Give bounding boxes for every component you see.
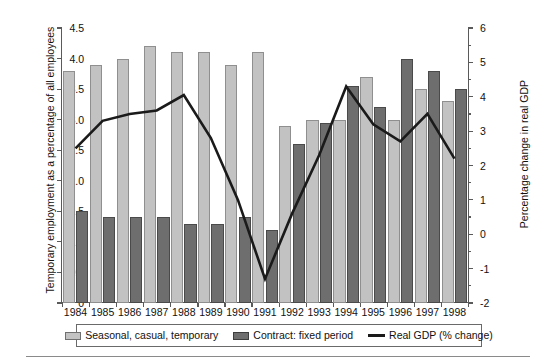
right-tick-label: -1 (480, 264, 489, 275)
right-minor-tick (468, 251, 471, 252)
legend-label-gdp: Real GDP (% change) (389, 330, 493, 341)
legend-item-gdp: Real GDP (% change) (368, 330, 493, 341)
right-minor-tick (468, 285, 471, 286)
legend-item-contract: Contract: fixed period (233, 330, 353, 341)
right-axis-tick-labels: -2-10123456 (480, 28, 510, 303)
right-tick-label: 5 (480, 57, 486, 68)
right-tick-label: 1 (480, 195, 486, 206)
right-minor-tick (468, 182, 471, 183)
right-tick-label: 4 (480, 92, 486, 103)
right-tick (468, 96, 473, 97)
right-tick (468, 27, 473, 28)
x-tick-label-1993: 1993 (306, 306, 333, 318)
x-tick-label-1988: 1988 (170, 306, 197, 318)
right-tick (468, 131, 473, 132)
x-tick-label-1997: 1997 (414, 306, 441, 318)
right-tick (468, 165, 473, 166)
light-bar-swatch-icon (65, 332, 81, 340)
right-tick-label: 3 (480, 126, 486, 137)
x-tick-label-1996: 1996 (387, 306, 414, 318)
x-axis-tick-labels: 1984198519861987198819891990199119921993… (62, 306, 468, 322)
plot-area: 00.51.01.52.02.53.03.54.04.5 -2-10123456… (62, 28, 468, 303)
right-tick-label: -2 (480, 298, 489, 309)
footer-divider (26, 356, 530, 357)
right-minor-tick (468, 148, 471, 149)
right-tick-label: 0 (480, 229, 486, 240)
x-tick (468, 302, 469, 307)
x-tick-label-1984: 1984 (62, 306, 89, 318)
legend-label-contract: Contract: fixed period (253, 330, 353, 341)
right-tick (468, 199, 473, 200)
right-minor-tick (468, 79, 471, 80)
chart-figure: 00.51.01.52.02.53.03.54.04.5 -2-10123456… (0, 0, 554, 364)
x-tick-label-1992: 1992 (279, 306, 306, 318)
right-tick-label: 6 (480, 23, 486, 34)
x-tick-label-1995: 1995 (360, 306, 387, 318)
x-tick-label-1990: 1990 (224, 306, 251, 318)
chart-legend: Seasonal, casual, temporary Contract: fi… (76, 324, 482, 347)
line-swatch-icon (368, 334, 385, 337)
right-minor-tick (468, 216, 471, 217)
x-tick-label-1985: 1985 (89, 306, 116, 318)
gdp-line-path (76, 86, 455, 279)
right-minor-tick (468, 45, 471, 46)
legend-label-seasonal: Seasonal, casual, temporary (85, 330, 218, 341)
x-tick-label-1989: 1989 (197, 306, 224, 318)
x-tick-label-1987: 1987 (143, 306, 170, 318)
x-tick-label-1998: 1998 (441, 306, 468, 318)
gdp-line-series (62, 28, 468, 303)
right-minor-tick (468, 113, 471, 114)
x-tick-label-1994: 1994 (333, 306, 360, 318)
y-axis-left-title: Temporary employment as a percentage of … (44, 10, 56, 310)
legend-item-seasonal: Seasonal, casual, temporary (65, 330, 218, 341)
y-axis-right-title: Percentage change in real GDP (518, 4, 530, 304)
right-tick (468, 234, 473, 235)
dark-bar-swatch-icon (233, 332, 249, 340)
x-tick-label-1986: 1986 (116, 306, 143, 318)
right-tick (468, 62, 473, 63)
x-tick-label-1991: 1991 (251, 306, 278, 318)
right-tick-label: 2 (480, 161, 486, 172)
right-tick (468, 268, 473, 269)
